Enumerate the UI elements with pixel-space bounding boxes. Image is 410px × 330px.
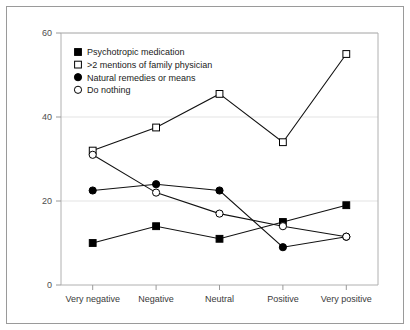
series-line (93, 155, 347, 237)
series-4 (93, 155, 347, 237)
line-chart: 0204060 Very negativeNegativeNeutralPosi… (0, 0, 410, 330)
marker-filled-circle-legend-3 (74, 74, 81, 81)
legend-item-2: >2 mentions of family physician (75, 60, 213, 70)
marker-filled-square-1-2 (153, 223, 160, 230)
marker-open-square-2-2 (153, 124, 160, 131)
marker-filled-square-1-5 (343, 202, 350, 209)
marker-open-circle-4-2 (153, 189, 160, 196)
legend-item-1: Psychotropic medication (75, 47, 185, 57)
marker-open-square-legend-2 (75, 61, 82, 68)
marker-filled-circle-3-3 (216, 187, 223, 194)
gridlines (61, 33, 378, 201)
series-markers-4 (89, 151, 350, 240)
legend-item-label: Natural remedies or means (87, 73, 196, 83)
marker-open-square-2-5 (343, 51, 350, 58)
y-axis-tick-label: 0 (47, 280, 52, 290)
y-axis-ticks: 0204060 (42, 28, 61, 290)
x-axis-category-label: Neutral (205, 294, 234, 304)
y-axis-tick-label: 40 (42, 112, 52, 122)
legend-item-label: Psychotropic medication (87, 47, 185, 57)
marker-filled-square-legend-1 (75, 49, 82, 56)
chart-legend: Psychotropic medication>2 mentions of fa… (74, 47, 212, 95)
legend-item-label: >2 mentions of family physician (87, 60, 212, 70)
x-axis-category-label: Very negative (65, 294, 120, 304)
x-axis-category-label: Very positive (321, 294, 372, 304)
marker-filled-square-1-3 (216, 235, 223, 242)
y-axis-tick-label: 20 (42, 196, 52, 206)
legend-item-label: Do nothing (87, 85, 131, 95)
marker-open-square-2-4 (280, 139, 287, 146)
marker-filled-square-1-1 (89, 240, 96, 247)
marker-open-square-2-3 (216, 91, 223, 98)
marker-open-circle-4-1 (89, 151, 96, 158)
figure-container: 0204060 Very negativeNegativeNeutralPosi… (0, 0, 410, 330)
x-axis-category-label: Positive (267, 294, 299, 304)
marker-filled-circle-3-1 (89, 187, 96, 194)
x-axis-category-label: Negative (138, 294, 174, 304)
x-axis-category-labels: Very negativeNegativeNeutralPositiveVery… (65, 294, 371, 304)
x-axis-ticks (93, 285, 347, 290)
marker-filled-circle-3-2 (153, 181, 160, 188)
legend-item-4: Do nothing (74, 85, 130, 95)
legend-item-3: Natural remedies or means (74, 73, 196, 83)
marker-open-circle-4-3 (216, 210, 223, 217)
plot-frame (61, 33, 378, 285)
marker-filled-circle-3-4 (279, 244, 286, 251)
marker-open-circle-4-4 (279, 223, 286, 230)
y-axis-tick-label: 60 (42, 28, 52, 38)
marker-open-circle-4-5 (343, 233, 350, 240)
series-markers-1 (89, 202, 349, 247)
marker-open-circle-legend-4 (74, 86, 81, 93)
